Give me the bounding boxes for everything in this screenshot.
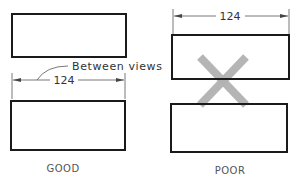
good-bottom-view [11, 101, 125, 150]
poor-dimension-value: 124 [220, 10, 241, 23]
good-example: 124 Between views GOOD [11, 14, 163, 174]
poor-example: 124 POOR [171, 9, 289, 176]
good-dimension-value: 124 [54, 74, 75, 87]
dimension-placement-diagram: 124 Between views GOOD 124 POOR [0, 0, 301, 185]
good-note-between-views: Between views [72, 60, 163, 73]
poor-caption: POOR [215, 165, 246, 176]
good-arrowhead-left [13, 78, 21, 82]
poor-arrowhead-right [280, 14, 288, 18]
good-arrowhead-right [116, 78, 124, 82]
x-mark-icon [200, 57, 246, 105]
good-top-view [12, 14, 126, 57]
poor-bottom-view [171, 104, 287, 152]
good-caption: GOOD [46, 163, 79, 174]
poor-arrowhead-left [174, 14, 182, 18]
